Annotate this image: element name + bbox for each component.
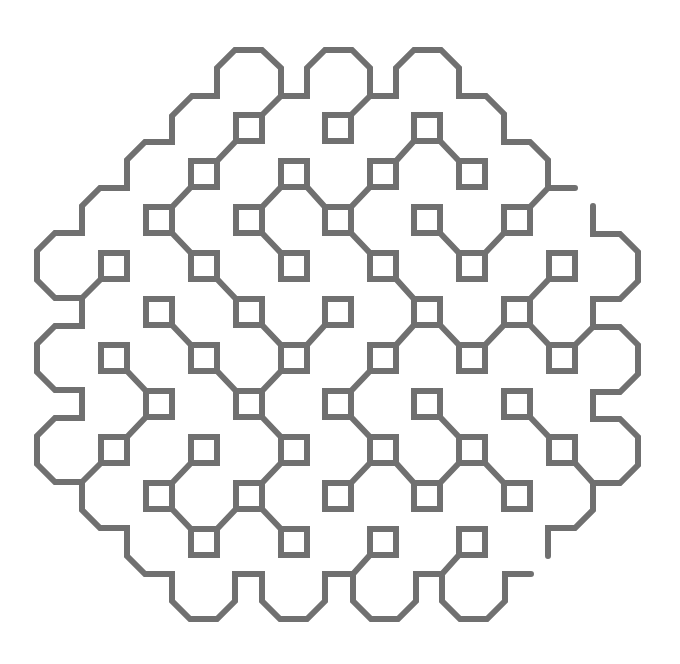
- fractal-curve-diagram: [0, 0, 680, 664]
- background: [0, 0, 680, 664]
